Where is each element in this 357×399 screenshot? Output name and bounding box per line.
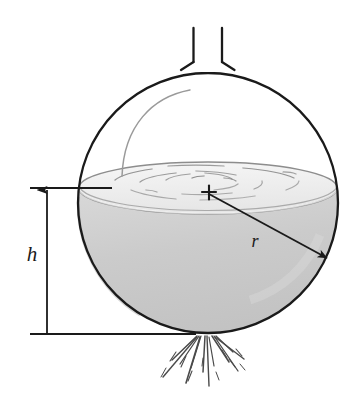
radius-label: r xyxy=(251,231,259,251)
spherical-tank-diagram: h r xyxy=(0,0,357,399)
neck-opening-mask xyxy=(195,60,220,72)
height-label: h xyxy=(27,242,38,266)
figure-container: h r xyxy=(0,0,357,399)
water-jet-spray xyxy=(161,336,245,386)
